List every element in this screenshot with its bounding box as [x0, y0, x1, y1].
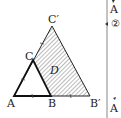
label-c: C [25, 51, 33, 62]
arrow-marker-bottom [113, 97, 116, 100]
label-c-prime: C′ [48, 14, 59, 25]
label-region-d: D [50, 65, 59, 76]
label-b: B [48, 98, 56, 109]
triangle-diagram [0, 0, 121, 118]
side-marker: ② [111, 19, 120, 29]
side-label-top: A [110, 4, 118, 15]
side-label-bottom: A [110, 103, 118, 114]
tick-ab [32, 94, 33, 98]
shaded-region-d [33, 26, 90, 96]
label-a: A [7, 98, 15, 109]
label-b-prime: B′ [90, 98, 101, 109]
